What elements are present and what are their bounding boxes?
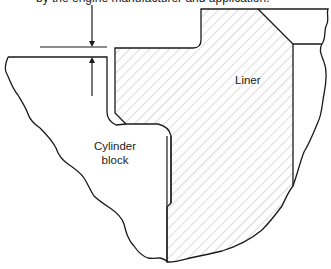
protrusion-dimension xyxy=(40,5,107,96)
arrow-up-icon xyxy=(89,57,95,63)
cylinder-block-label: Cylinder block xyxy=(70,139,160,167)
cylinder-block-label-line2: block xyxy=(70,153,160,167)
arrow-down-icon xyxy=(89,41,95,47)
cylinder-block-label-line1: Cylinder xyxy=(70,139,160,153)
liner-section xyxy=(115,9,293,262)
liner-label: Liner xyxy=(235,73,261,87)
liner-protrusion-diagram xyxy=(0,0,331,269)
